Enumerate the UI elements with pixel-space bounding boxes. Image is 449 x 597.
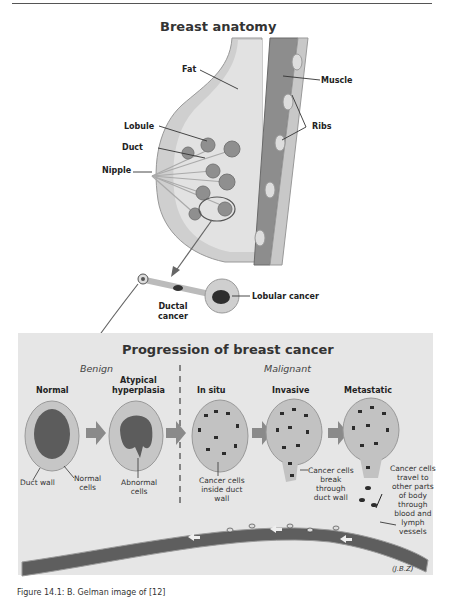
artist-signature: (J.B.Z)	[392, 565, 414, 574]
label-ductal-cancer: Ductal cancer	[158, 302, 188, 322]
stage-metastatic: Metastatic	[344, 386, 392, 395]
note-abnormal-cells: Abnormal cells	[121, 478, 157, 496]
note-metastatic: Cancer cells travel to other parts of bo…	[390, 464, 436, 536]
label-nipple: Nipple	[102, 166, 131, 175]
progression-title: Progression of breast cancer	[122, 342, 334, 357]
label-lobular-cancer: Lobular cancer	[252, 292, 319, 301]
anatomy-title: Breast anatomy	[160, 19, 276, 34]
label-lobule: Lobule	[124, 122, 154, 131]
stage-in-situ: In situ	[197, 386, 225, 395]
stage-normal: Normal	[36, 386, 69, 395]
label-muscle: Muscle	[321, 76, 352, 85]
group-malignant: Malignant	[264, 363, 311, 374]
label-duct: Duct	[122, 143, 143, 152]
label-ribs: Ribs	[312, 122, 331, 131]
stage-invasive: Invasive	[272, 386, 309, 395]
group-benign: Benign	[80, 363, 113, 374]
figure-caption: Figure 14.1: B. Gelman image of [12]	[17, 588, 165, 597]
note-duct-wall: Duct wall	[20, 478, 55, 487]
stage-atypical-hyperplasia: Atypical hyperplasia	[112, 376, 165, 396]
note-in-situ: Cancer cells inside duct wall	[199, 476, 245, 503]
note-invasive: Cancer cells break through duct wall	[308, 466, 354, 502]
label-fat: Fat	[182, 65, 196, 74]
note-normal-cells: Normal cells	[74, 474, 101, 492]
